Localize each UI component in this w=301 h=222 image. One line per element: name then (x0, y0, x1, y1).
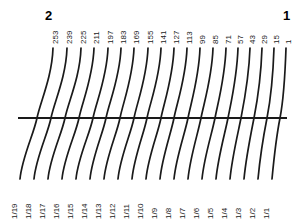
bottom-tick-label: 1/15 (67, 203, 75, 219)
bottom-tick-label: 1/1 (263, 208, 271, 219)
bottom-tick-label: 1/7 (179, 208, 187, 219)
bottom-tick-label: 1/17 (39, 203, 47, 219)
bottom-tick-label: 1/12 (109, 203, 117, 219)
top-tick-label: 141 (160, 31, 168, 44)
top-tick-label: 43 (249, 35, 257, 44)
top-tick-label: 211 (93, 31, 101, 44)
bottom-tick-label: 1/8 (165, 208, 173, 219)
bottom-tick-label: 1/3 (235, 208, 243, 219)
bottom-tick-label: 1/14 (81, 203, 89, 219)
top-tick-label: 15 (273, 35, 281, 44)
nomogram-curve (244, 48, 262, 179)
nomogram-curve (118, 48, 148, 179)
bottom-tick-label: 1/10 (137, 203, 145, 219)
top-tick-label: 113 (186, 31, 194, 44)
top-tick-label: 253 (52, 31, 60, 44)
top-tick-label: 57 (237, 35, 245, 44)
bottom-tick-label: 1/6 (193, 208, 201, 219)
nomogram-curve (188, 48, 213, 179)
nomogram-curve (174, 48, 200, 179)
bottom-tick-label: 1/19 (11, 203, 19, 219)
top-tick-label: 155 (147, 31, 155, 44)
top-tick-label: 183 (120, 31, 128, 44)
bottom-tick-label: 1/4 (221, 208, 229, 219)
top-tick-label: 71 (225, 35, 233, 44)
bottom-tick-label: 1/11 (123, 204, 131, 219)
top-tick-label: 99 (199, 35, 207, 44)
nomogram-curve (216, 48, 238, 179)
top-tick-label: 169 (133, 31, 141, 44)
top-tick-label: 85 (212, 35, 220, 44)
curve-group (20, 48, 286, 179)
bottom-tick-label: 1/13 (95, 203, 103, 219)
nomogram-curve (146, 48, 174, 179)
top-tick-label: 127 (173, 31, 181, 44)
top-tick-label: 29 (261, 35, 269, 44)
bottom-tick-label: 1/16 (53, 203, 61, 219)
top-tick-label: 197 (107, 31, 115, 44)
nomogram-curve (20, 48, 53, 179)
nomogram-curve (272, 48, 286, 179)
bottom-tick-label: 1/2 (249, 208, 257, 219)
corner-label-top-left: 2 (45, 9, 52, 22)
bottom-tick-label: 1/18 (25, 203, 33, 219)
nomogram-curve (160, 48, 187, 179)
nomogram-figure: 2 1 253239225211197183169155141127113998… (0, 0, 301, 222)
top-tick-label: 239 (66, 31, 74, 44)
bottom-tick-label: 1/9 (151, 208, 159, 219)
top-tick-label: 1 (285, 40, 293, 44)
top-tick-label: 225 (80, 31, 88, 44)
nomogram-curve (202, 48, 226, 179)
bottom-tick-label: 1/5 (207, 208, 215, 219)
corner-label-top-right: 1 (283, 9, 290, 22)
